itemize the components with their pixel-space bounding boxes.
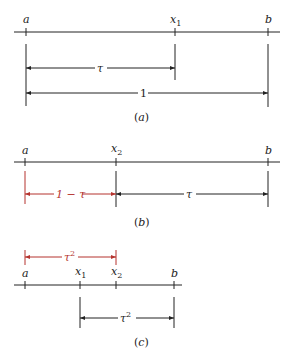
label-b: b: [265, 13, 272, 26]
label-x1: x1: [170, 13, 181, 28]
label-b: b: [265, 144, 272, 157]
label-a: a: [23, 13, 30, 26]
panel-b: a x2 b 1 − τ τ (b): [14, 142, 280, 229]
panel-a: a x1 b τ 1 (a): [14, 13, 280, 124]
label-x1: x1: [75, 265, 86, 280]
arrow-tau-sq-bottom-label: τ2: [120, 310, 131, 325]
golden-section-diagram: a x1 b τ 1 (a) a x2 b 1 − τ τ (b): [0, 0, 297, 356]
arrow-one-minus-tau-label: 1 − τ: [56, 188, 86, 201]
caption-a: (a): [134, 111, 149, 124]
label-x2: x2: [111, 265, 122, 280]
label-x2: x2: [111, 142, 122, 157]
panel-c: τ2 a x1 x2 b τ2 (c): [14, 249, 182, 349]
label-a: a: [22, 267, 29, 280]
arrow-tau-sq-top-label: τ2: [64, 249, 75, 264]
arrow-one-label: 1: [140, 87, 147, 100]
arrow-tau-label: τ: [186, 188, 193, 201]
label-a: a: [22, 144, 29, 157]
arrow-tau-label: τ: [97, 62, 104, 75]
caption-c: (c): [134, 336, 149, 349]
caption-b: (b): [134, 216, 150, 229]
label-b: b: [171, 267, 178, 280]
